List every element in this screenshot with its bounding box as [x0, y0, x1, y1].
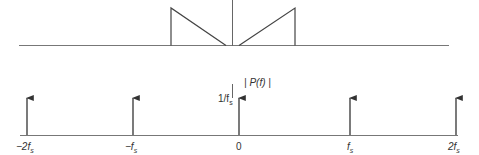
left-spectrum-shape [171, 8, 226, 46]
tick-label-zero: 0 [236, 142, 242, 152]
impulse-height-label: 1/fs [218, 94, 233, 106]
tick-label-2fs: 2fs [448, 142, 460, 154]
tick-label-negfs: −fs [125, 142, 137, 154]
diagram-canvas [0, 0, 479, 155]
tick-label-fs: fs [347, 142, 353, 154]
ylabel-pf: | P(f) | [244, 78, 271, 88]
bottom-impulse-train [20, 84, 458, 136]
right-spectrum-shape [239, 8, 295, 46]
top-spectrum [19, 0, 449, 46]
tick-label-neg2fs: −2fs [16, 142, 34, 154]
